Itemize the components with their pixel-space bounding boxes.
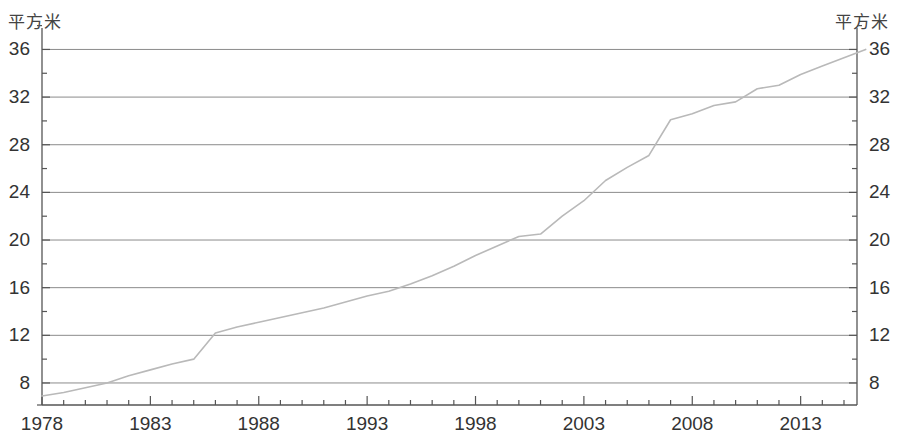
- x-tick-label-2013: 2013: [780, 414, 822, 433]
- x-axis-ticks-group: [37, 396, 844, 405]
- y-tick-label-right-16: 16: [869, 278, 890, 297]
- y-tick-label-left-28: 28: [9, 135, 30, 154]
- x-tick-label-1998: 1998: [454, 414, 496, 433]
- y-tick-label-right-20: 20: [869, 230, 890, 249]
- y-tick-label-right-12: 12: [869, 325, 890, 344]
- y-tick-label-right-28: 28: [869, 135, 890, 154]
- y-tick-label-left-20: 20: [9, 230, 30, 249]
- gridlines-group: [42, 49, 857, 383]
- x-tick-label-2003: 2003: [563, 414, 605, 433]
- x-tick-label-1978: 1978: [21, 414, 63, 433]
- y-tick-label-left-36: 36: [9, 39, 30, 58]
- y-tick-label-right-32: 32: [869, 87, 890, 106]
- y-tick-label-left-8: 8: [19, 373, 30, 392]
- x-tick-label-1983: 1983: [129, 414, 171, 433]
- y-tick-label-left-12: 12: [9, 325, 30, 344]
- axis-minor-ticks-group: [37, 26, 862, 383]
- y-tick-label-left-32: 32: [9, 87, 30, 106]
- y-tick-label-right-36: 36: [869, 39, 890, 58]
- data-series-line: [42, 49, 866, 396]
- axes-group: [42, 28, 857, 405]
- y-tick-label-right-24: 24: [869, 182, 890, 201]
- chart-container: 平方米 平方米 812162024283236 812162024283236 …: [0, 0, 897, 438]
- x-tick-label-1993: 1993: [346, 414, 388, 433]
- line-chart-plot: [0, 0, 897, 438]
- x-tick-label-1988: 1988: [238, 414, 280, 433]
- y-tick-label-right-8: 8: [869, 373, 880, 392]
- x-tick-label-2008: 2008: [671, 414, 713, 433]
- y-tick-label-left-16: 16: [9, 278, 30, 297]
- y-tick-label-left-24: 24: [9, 182, 30, 201]
